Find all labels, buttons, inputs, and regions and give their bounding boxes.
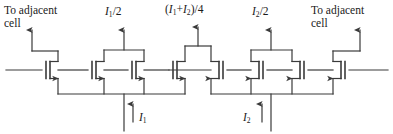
transistor-m1 [46,62,58,79]
left-output-current-divisor: /2 [113,5,122,17]
input-left-subscript: 1 [143,116,147,125]
right-output-current-divisor: /2 [260,5,269,17]
input-right-current-label: I2 [243,111,251,126]
left-adjacent-cell-line1: To adjacent [4,4,57,16]
input-left-current-label: I1 [139,111,147,126]
right-adjacent-cell-label: To adjacent cell [311,4,364,30]
transistor-m3 [132,62,144,79]
transistor-m8 [333,62,345,79]
right-adjacent-cell-line2: cell [311,17,328,29]
right-output-current-label: I2/2 [252,5,269,20]
circuit-figure: To adjacent cell To adjacent cell I1/2 (… [0,0,393,134]
transistor-m5 [211,62,223,79]
center-output-divisor: )/4 [191,3,204,15]
transistor-m6 [251,62,263,79]
transistor-m2 [92,62,104,79]
left-output-current-label: I1/2 [105,5,122,20]
center-output-current-label: (I1+I2)/4 [165,3,203,18]
left-adjacent-cell-line2: cell [4,17,21,29]
left-adjacent-cell-label: To adjacent cell [4,4,57,30]
input-right-subscript: 2 [247,116,251,125]
right-adjacent-cell-line1: To adjacent [311,4,364,16]
transistor-m7 [292,62,304,79]
